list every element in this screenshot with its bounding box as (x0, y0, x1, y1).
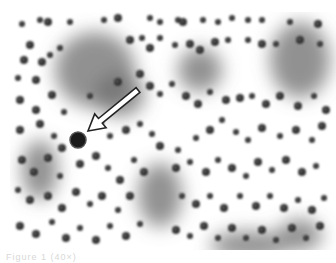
cell (192, 200, 200, 208)
cell (157, 19, 163, 25)
cell (215, 235, 221, 241)
cell (316, 222, 324, 230)
cell (114, 78, 122, 86)
cell (282, 156, 290, 164)
cell (26, 196, 34, 204)
cell (262, 100, 270, 108)
cell (61, 109, 67, 115)
cell (179, 18, 187, 26)
cell (30, 168, 38, 176)
cell (67, 19, 73, 25)
cell (314, 20, 322, 28)
cell (131, 157, 137, 163)
cell (172, 164, 180, 172)
cell (172, 42, 178, 48)
cell (58, 144, 66, 152)
cell (222, 96, 230, 104)
cell (187, 159, 193, 165)
cell (122, 232, 130, 240)
cell (126, 36, 134, 44)
cell (32, 76, 40, 84)
cell (245, 17, 251, 23)
cell (16, 126, 24, 134)
cell (206, 126, 214, 134)
cell (245, 37, 251, 43)
cell (136, 70, 144, 78)
cell (237, 193, 243, 199)
cell (18, 156, 26, 164)
cell (48, 91, 56, 99)
cell (107, 133, 113, 139)
top-border (0, 0, 336, 12)
cell (15, 187, 21, 193)
cell (245, 137, 251, 143)
cell (156, 142, 164, 150)
cell (57, 45, 63, 51)
cell (16, 222, 24, 230)
cell (229, 15, 235, 21)
figure-caption: Figure 1 (40×) (6, 252, 77, 262)
cell (233, 129, 239, 135)
cell (202, 168, 210, 176)
cell (322, 106, 330, 114)
cell (196, 46, 204, 54)
cell (122, 126, 130, 134)
cell (317, 41, 323, 47)
cell (236, 94, 244, 102)
cell (182, 92, 190, 100)
cell (44, 18, 52, 26)
cell (92, 152, 100, 160)
cell (126, 192, 134, 200)
cell (105, 165, 111, 171)
cell (114, 14, 122, 22)
cell (87, 201, 93, 207)
cell (219, 117, 225, 123)
cell (200, 17, 206, 23)
cell (32, 230, 40, 238)
cell (318, 122, 326, 130)
cell (115, 207, 121, 213)
cell (36, 120, 44, 128)
cell (87, 93, 93, 99)
cell (303, 235, 309, 241)
cell (228, 224, 236, 232)
cell (220, 204, 228, 212)
cell (269, 167, 275, 173)
cell (298, 168, 306, 176)
cell (15, 75, 21, 81)
cell (225, 37, 231, 43)
cell (215, 19, 221, 25)
cell (58, 204, 66, 212)
cell (296, 36, 304, 44)
cell (186, 40, 194, 48)
cell (249, 93, 255, 99)
cell (19, 21, 25, 27)
cell (308, 206, 316, 214)
cell (273, 41, 279, 47)
cell (179, 193, 185, 199)
cell (252, 202, 260, 210)
cell (309, 137, 315, 143)
cell (16, 96, 24, 104)
cell (280, 204, 288, 212)
cell (77, 225, 83, 231)
cell (98, 192, 106, 200)
cell (277, 133, 283, 139)
left-border (0, 0, 10, 263)
cell (137, 221, 143, 227)
cell (311, 93, 317, 99)
cell (38, 58, 46, 66)
cell (294, 102, 302, 110)
cell (258, 40, 266, 48)
cell (147, 15, 153, 21)
cell (259, 17, 265, 23)
cell (44, 154, 52, 162)
micrograph-image (0, 0, 336, 263)
cell (62, 234, 70, 242)
cell (20, 56, 28, 64)
cell (207, 89, 213, 95)
cell (194, 100, 202, 108)
cell (32, 106, 40, 114)
cell (37, 17, 43, 23)
cell (51, 133, 57, 139)
